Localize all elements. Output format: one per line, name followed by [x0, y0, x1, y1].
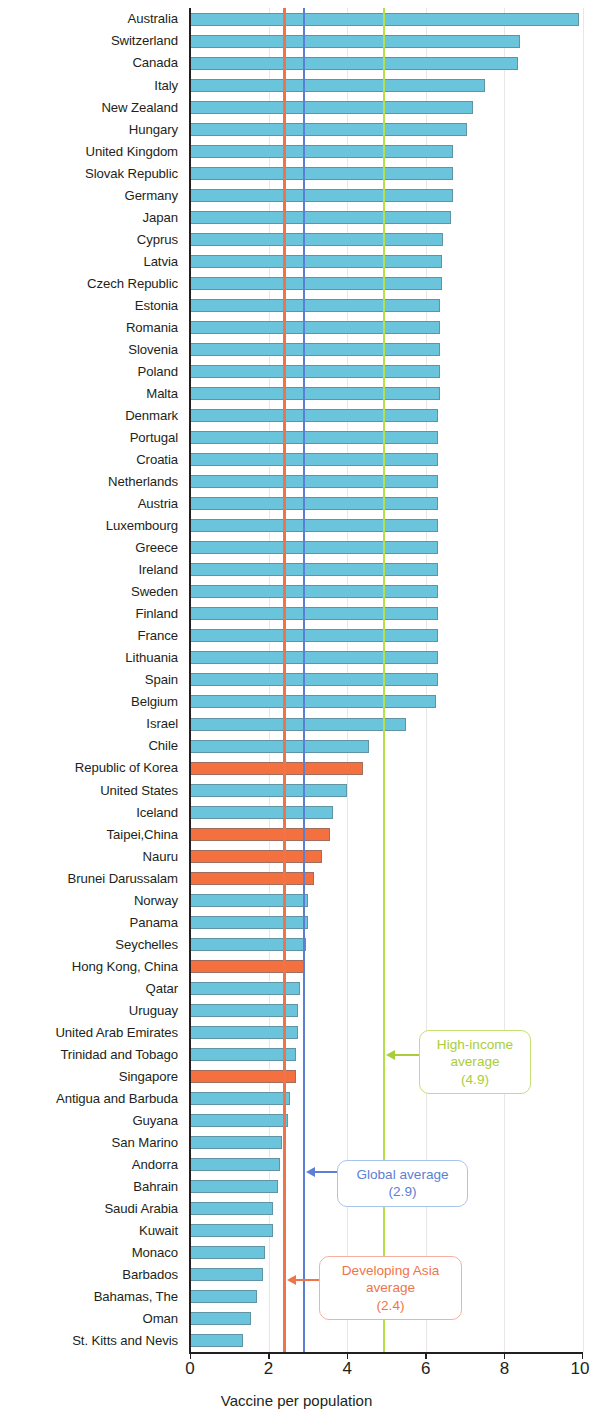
bar: [190, 1334, 243, 1347]
category-label: Seychelles: [115, 938, 178, 951]
callout-developing-asia-line3: (2.4): [328, 1297, 453, 1314]
category-label: Greece: [135, 541, 178, 554]
category-label: Nauru: [143, 850, 178, 863]
bar: [190, 101, 473, 114]
category-label-row: Italy: [0, 74, 184, 96]
bar: [190, 1048, 296, 1061]
category-label-row: Romania: [0, 316, 184, 338]
category-label-row: Sweden: [0, 581, 184, 603]
category-label-row: Andorra: [0, 1154, 184, 1176]
callout-global-line2: (2.9): [346, 1183, 459, 1200]
category-label-row: Hungary: [0, 118, 184, 140]
bar-row: [190, 515, 583, 537]
bar: [190, 695, 436, 708]
bar: [190, 1070, 296, 1083]
bar-row: [190, 449, 583, 471]
bar-row: [190, 250, 583, 272]
plot-area: [190, 8, 583, 1352]
bar: [190, 387, 440, 400]
bar: [190, 1180, 278, 1193]
category-label-row: Israel: [0, 713, 184, 735]
category-label-row: Austria: [0, 493, 184, 515]
category-label: Spain: [145, 673, 178, 686]
bar-row: [190, 735, 583, 757]
category-label: Bahamas, The: [94, 1290, 178, 1303]
category-label: Chile: [148, 739, 178, 752]
bar: [190, 1026, 298, 1039]
category-label-row: Slovak Republic: [0, 162, 184, 184]
category-label: Switzerland: [111, 34, 178, 47]
bar: [190, 299, 440, 312]
category-label-row: Monaco: [0, 1242, 184, 1264]
category-label-row: Switzerland: [0, 30, 184, 52]
category-label-row: Latvia: [0, 250, 184, 272]
x-tick-label-4: 4: [342, 1360, 351, 1379]
category-label: Croatia: [136, 453, 178, 466]
category-label-row: Guyana: [0, 1110, 184, 1132]
x-tick-label-6: 6: [421, 1360, 430, 1379]
category-label: Iceland: [136, 806, 178, 819]
category-label: Israel: [146, 717, 178, 730]
bar-row: [190, 338, 583, 360]
category-label: Brunei Darussalam: [68, 872, 178, 885]
bar-row: [190, 228, 583, 250]
category-label: Antigua and Barbuda: [56, 1092, 178, 1105]
category-label-row: Panama: [0, 911, 184, 933]
bar-row: [190, 779, 583, 801]
category-label: Republic of Korea: [75, 761, 178, 774]
category-label: Estonia: [135, 299, 178, 312]
category-label-row: Norway: [0, 889, 184, 911]
bar-row: [190, 1220, 583, 1242]
category-label: Latvia: [143, 255, 178, 268]
bar: [190, 1312, 251, 1325]
callout-developing-asia-line1: Developing Asia: [328, 1262, 453, 1279]
category-label: Guyana: [132, 1114, 178, 1127]
bar-row: [190, 316, 583, 338]
bar: [190, 1224, 273, 1237]
bar: [190, 35, 520, 48]
category-label-row: Ireland: [0, 559, 184, 581]
bar-row: [190, 603, 583, 625]
bar: [190, 718, 406, 731]
bar-row: [190, 162, 583, 184]
category-label: Cyprus: [137, 233, 178, 246]
bar: [190, 673, 438, 686]
category-label-row: Slovenia: [0, 338, 184, 360]
category-label-row: Germany: [0, 184, 184, 206]
category-label: Malta: [146, 387, 178, 400]
category-label-row: Hong Kong, China: [0, 955, 184, 977]
category-label: Uruguay: [129, 1004, 178, 1017]
callout-high-income-line3: (4.9): [428, 1071, 522, 1088]
category-label: Poland: [138, 365, 178, 378]
callout-high-income-line2: average: [428, 1053, 522, 1070]
callout-arrow-developing-asia: [287, 1279, 320, 1281]
category-label-row: Spain: [0, 669, 184, 691]
bar: [190, 1268, 263, 1281]
category-label: Luxembourg: [106, 519, 178, 532]
category-label-row: Denmark: [0, 405, 184, 427]
category-label: Slovenia: [128, 343, 178, 356]
bar-row: [190, 272, 583, 294]
bar-row: [190, 955, 583, 977]
bar-row: [190, 889, 583, 911]
bar-row: [190, 96, 583, 118]
category-label-row: Malta: [0, 383, 184, 405]
bar-row: [190, 383, 583, 405]
bar-row: [190, 361, 583, 383]
callout-arrow-high-income: [386, 1054, 420, 1056]
category-label: Norway: [134, 894, 178, 907]
bar-row: [190, 140, 583, 162]
x-tick-label-10: 10: [571, 1360, 590, 1379]
bar-row: [190, 184, 583, 206]
category-label-row: Taipei,China: [0, 823, 184, 845]
x-tick-label-2: 2: [264, 1360, 273, 1379]
category-label-row: St. Kitts and Nevis: [0, 1330, 184, 1352]
callout-developing-asia-line2: average: [328, 1279, 453, 1296]
x-tick-label-8: 8: [500, 1360, 509, 1379]
category-label: United States: [100, 784, 178, 797]
bar-row: [190, 52, 583, 74]
category-label: San Marino: [112, 1136, 178, 1149]
bar: [190, 431, 438, 444]
bar-row: [190, 1110, 583, 1132]
category-label: Ireland: [138, 563, 178, 576]
